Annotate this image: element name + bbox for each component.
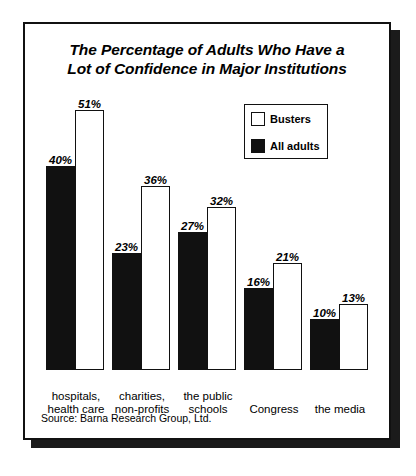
- bar-value-all-adults-media: 10%: [313, 307, 336, 319]
- chart-panel: The Percentage of Adults Who Have a Lot …: [23, 22, 391, 440]
- bar-all-adults-public-schools: 27%: [178, 232, 207, 370]
- bar-group-congress: 16% 21% Congress: [243, 24, 307, 438]
- bar-value-busters-congress: 21%: [276, 251, 299, 263]
- bar-all-adults-congress: 16%: [244, 288, 273, 370]
- plot-area: 40% 51% hospitals, health care 23%: [25, 24, 389, 438]
- bar-group-charities: 23% 36% charities, non-profits: [111, 24, 175, 438]
- bar-value-all-adults-charities: 23%: [115, 241, 138, 253]
- bar-value-all-adults-public-schools: 27%: [181, 220, 204, 232]
- category-label-congress-line-1: Congress: [249, 403, 298, 416]
- bar-busters-public-schools: 32%: [207, 207, 236, 370]
- bar-busters-charities: 36%: [141, 186, 170, 370]
- category-label-media: the media: [315, 403, 366, 416]
- source-note: Source: Barna Research Group, Ltd.: [41, 412, 211, 424]
- bar-busters-congress: 21%: [273, 263, 302, 370]
- bar-group-hospitals: 40% 51% hospitals, health care: [45, 24, 109, 438]
- category-label-congress: Congress: [249, 403, 298, 416]
- bar-value-busters-media: 13%: [342, 292, 365, 304]
- category-label-charities-line-1: charities,: [115, 390, 169, 403]
- bar-group-public-schools: 27% 32% the public schools: [177, 24, 241, 438]
- category-label-public-schools-line-1: the public: [183, 390, 232, 403]
- bar-all-adults-charities: 23%: [112, 253, 141, 370]
- category-label-media-line-1: the media: [315, 403, 366, 416]
- category-label-hospitals-line-1: hospitals,: [48, 390, 105, 403]
- bar-busters-hospitals: 51%: [75, 110, 104, 370]
- bar-value-busters-hospitals: 51%: [78, 98, 101, 110]
- bar-value-busters-public-schools: 32%: [210, 195, 233, 207]
- chart-figure: The Percentage of Adults Who Have a Lot …: [0, 0, 416, 476]
- bar-value-busters-charities: 36%: [144, 174, 167, 186]
- bar-value-all-adults-hospitals: 40%: [49, 154, 72, 166]
- bar-busters-media: 13%: [339, 304, 368, 370]
- bar-all-adults-media: 10%: [310, 319, 339, 370]
- bar-value-all-adults-congress: 16%: [247, 276, 270, 288]
- bar-all-adults-hospitals: 40%: [46, 166, 75, 370]
- bar-group-media: 10% 13% the media: [309, 24, 373, 438]
